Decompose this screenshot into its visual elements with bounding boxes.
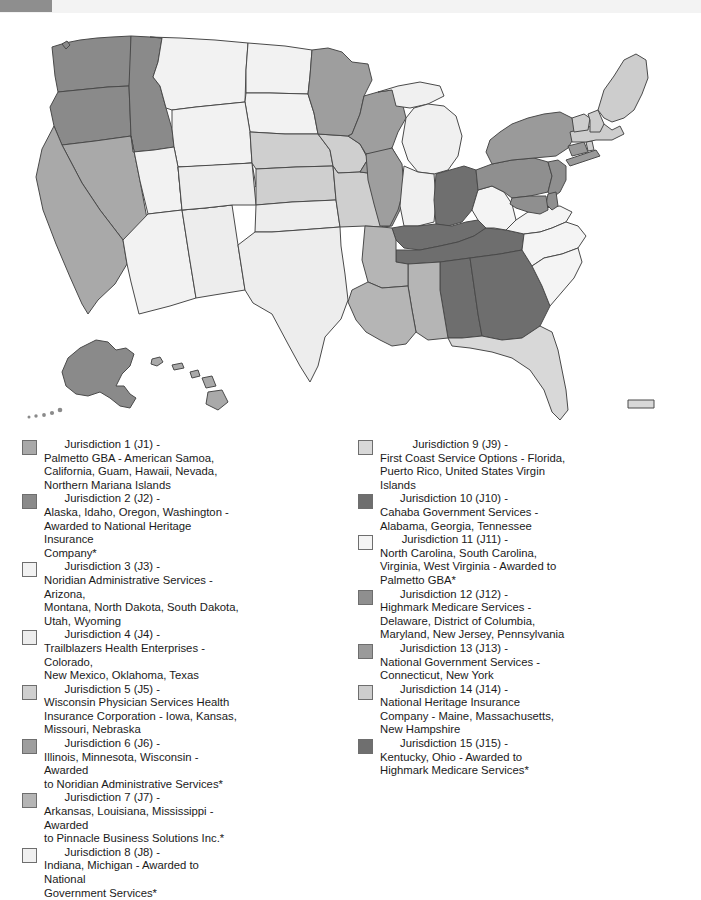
state-louisiana bbox=[348, 282, 416, 346]
legend-description: Indiana, Michigan - Awarded to National … bbox=[44, 859, 240, 900]
state-puerto-rico bbox=[628, 400, 654, 408]
legend-swatch bbox=[358, 440, 373, 455]
state-colorado-fill bbox=[178, 163, 256, 210]
legend-swatch bbox=[358, 644, 373, 659]
legend-item[interactable]: Jurisdiction 11 (J11) - North Carolina, … bbox=[358, 533, 701, 587]
legend-swatch bbox=[358, 590, 373, 605]
legend-swatch bbox=[358, 494, 373, 509]
legend-item[interactable]: Jurisdiction 1 (J1) - Palmetto GBA - Ame… bbox=[22, 438, 352, 492]
legend-label: Jurisdiction 6 (J6) - bbox=[44, 737, 160, 751]
top-bar-tab bbox=[0, 0, 52, 12]
legend-label: Jurisdiction 3 (J3) - bbox=[44, 560, 160, 574]
legend-column-right: Jurisdiction 9 (J9) - First Coast Servic… bbox=[358, 438, 701, 778]
state-alaska bbox=[62, 340, 136, 408]
legend-item[interactable]: Jurisdiction 9 (J9) - First Coast Servic… bbox=[358, 438, 701, 492]
legend-description: Highmark Medicare Services - Delaware, D… bbox=[380, 601, 578, 642]
legend-swatch bbox=[358, 535, 373, 550]
legend-description: National Government Services - Connectic… bbox=[380, 656, 578, 683]
legend-item[interactable]: Jurisdiction 7 (J7) - Arkansas, Louisian… bbox=[22, 791, 352, 845]
legend-description: Wisconsin Physician Services Health Insu… bbox=[44, 696, 240, 737]
state-maryland bbox=[510, 196, 548, 214]
state-hawaii bbox=[151, 357, 228, 410]
legend-label: Jurisdiction 13 (J13) - bbox=[380, 642, 508, 656]
map-legend: Jurisdiction 1 (J1) - Palmetto GBA - Ame… bbox=[0, 438, 701, 690]
map-svg bbox=[0, 14, 701, 434]
legend-label: Jurisdiction 15 (J15) - bbox=[380, 737, 508, 751]
legend-swatch bbox=[22, 848, 37, 863]
legend-swatch bbox=[22, 440, 37, 455]
legend-description: Cahaba Government Services - Alabama, Ge… bbox=[380, 506, 578, 533]
legend-swatch bbox=[22, 494, 37, 509]
state-rhode-island bbox=[586, 141, 594, 151]
legend-label: Jurisdiction 10 (J10) - bbox=[380, 492, 508, 506]
top-bar bbox=[0, 0, 701, 13]
legend-item[interactable]: Jurisdiction 8 (J8) - Indiana, Michigan … bbox=[22, 846, 352, 900]
legend-description: North Carolina, South Carolina, Virginia… bbox=[380, 547, 578, 588]
legend-label: Jurisdiction 7 (J7) - bbox=[44, 791, 160, 805]
state-indiana bbox=[400, 166, 436, 226]
legend-label: Jurisdiction 4 (J4) - bbox=[44, 628, 160, 642]
legend-item[interactable]: Jurisdiction 4 (J4) - Trailblazers Healt… bbox=[22, 628, 352, 682]
legend-description: Palmetto GBA - American Samoa, Californi… bbox=[44, 452, 240, 493]
legend-description: Noridian Administrative Services - Arizo… bbox=[44, 574, 240, 628]
legend-swatch bbox=[358, 685, 373, 700]
state-oklahoma bbox=[255, 200, 340, 232]
legend-item[interactable]: Jurisdiction 15 (J15) - Kentucky, Ohio -… bbox=[358, 737, 701, 778]
state-texas bbox=[238, 227, 348, 382]
us-jurisdiction-map bbox=[0, 14, 701, 434]
legend-description: Illinois, Minnesota, Wisconsin - Awarded… bbox=[44, 751, 240, 792]
legend-description: National Heritage Insurance Company - Ma… bbox=[380, 696, 578, 737]
legend-label: Jurisdiction 8 (J8) - bbox=[44, 846, 160, 860]
legend-item[interactable]: Jurisdiction 6 (J6) - Illinois, Minnesot… bbox=[22, 737, 352, 791]
state-north-dakota bbox=[246, 43, 312, 94]
legend-item[interactable]: Jurisdiction 10 (J10) - Cahaba Governmen… bbox=[358, 492, 701, 533]
legend-description: First Coast Service Options - Florida, P… bbox=[380, 452, 578, 493]
legend-swatch bbox=[22, 562, 37, 577]
state-new-york bbox=[486, 112, 576, 164]
state-south-dakota bbox=[245, 93, 318, 134]
legend-column-left: Jurisdiction 1 (J1) - Palmetto GBA - Ame… bbox=[22, 438, 352, 900]
legend-label: Jurisdiction 11 (J11) - bbox=[380, 533, 508, 547]
legend-description: Arkansas, Louisiana, Mississippi - Award… bbox=[44, 805, 240, 846]
aleutian-islands bbox=[28, 408, 63, 419]
legend-description: Kentucky, Ohio - Awarded to Highmark Med… bbox=[380, 751, 578, 778]
legend-swatch bbox=[22, 630, 37, 645]
legend-item[interactable]: Jurisdiction 3 (J3) - Noridian Administr… bbox=[22, 560, 352, 628]
state-florida bbox=[448, 326, 568, 420]
state-kansas bbox=[256, 166, 336, 205]
legend-item[interactable]: Jurisdiction 5 (J5) - Wisconsin Physicia… bbox=[22, 683, 352, 737]
state-montana bbox=[150, 37, 248, 110]
legend-item[interactable]: Jurisdiction 14 (J14) - National Heritag… bbox=[358, 683, 701, 737]
legend-description: Alaska, Idaho, Oregon, Washington - Awar… bbox=[44, 506, 240, 560]
legend-description: Trailblazers Health Enterprises - Colora… bbox=[44, 642, 240, 683]
state-vermont bbox=[572, 114, 590, 132]
state-wyoming bbox=[172, 102, 252, 167]
state-maine bbox=[598, 54, 648, 122]
legend-swatch bbox=[358, 739, 373, 754]
legend-swatch bbox=[22, 739, 37, 754]
legend-item[interactable]: Jurisdiction 12 (J12) - Highmark Medicar… bbox=[358, 588, 701, 642]
legend-label: Jurisdiction 5 (J5) - bbox=[44, 683, 160, 697]
state-michigan bbox=[402, 104, 462, 174]
legend-label: Jurisdiction 2 (J2) - bbox=[44, 492, 160, 506]
legend-item[interactable]: Jurisdiction 13 (J13) - National Governm… bbox=[358, 642, 701, 683]
legend-label: Jurisdiction 12 (J12) - bbox=[380, 588, 508, 602]
legend-swatch bbox=[22, 793, 37, 808]
state-oregon bbox=[50, 86, 131, 145]
state-ohio bbox=[434, 166, 478, 226]
legend-label: Jurisdiction 14 (J14) - bbox=[380, 683, 508, 697]
legend-label: Jurisdiction 9 (J9) - bbox=[380, 438, 508, 452]
legend-swatch bbox=[22, 685, 37, 700]
legend-item[interactable]: Jurisdiction 2 (J2) - Alaska, Idaho, Ore… bbox=[22, 492, 352, 560]
legend-label: Jurisdiction 1 (J1) - bbox=[44, 438, 160, 452]
